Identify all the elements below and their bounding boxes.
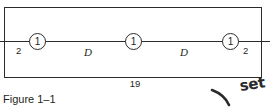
node-marker-2-label: 1	[131, 36, 137, 46]
node-marker-1: 1	[29, 33, 46, 50]
node-marker-3: 1	[222, 33, 239, 50]
left-edge-dimension: 2	[16, 46, 21, 56]
handwritten-note: set	[239, 75, 266, 94]
right-edge-dimension: 2	[243, 46, 248, 56]
span-label-left: D	[84, 47, 92, 58]
figure-caption: Figure 1–1	[3, 94, 56, 105]
node-marker-1-label: 1	[35, 36, 41, 46]
node-marker-3-label: 1	[228, 36, 234, 46]
span-label-right: D	[180, 47, 188, 58]
node-marker-2: 1	[125, 33, 142, 50]
figure-1-1: 1 1 1 2 2 D D 19 Figure 1–1 set	[0, 0, 270, 109]
curved-pen-stroke-icon	[210, 86, 236, 108]
